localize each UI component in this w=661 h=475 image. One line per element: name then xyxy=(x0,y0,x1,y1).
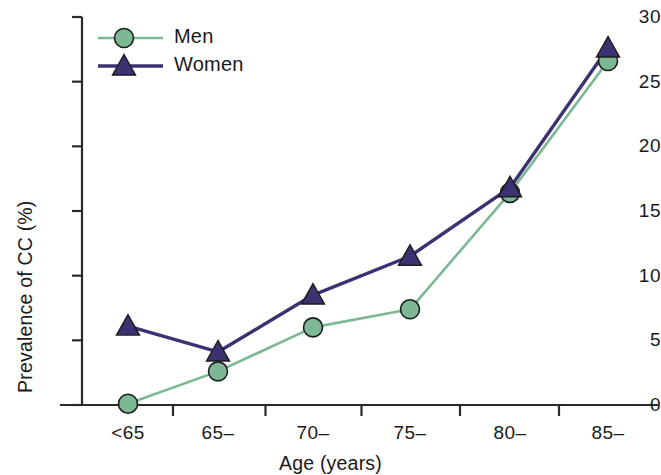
legend-glyphs xyxy=(98,29,163,75)
y-tick-label: 20 xyxy=(595,135,661,157)
y-tick-label: 15 xyxy=(595,200,661,222)
axis-ticks xyxy=(72,17,559,416)
y-axis-title: Prevalence of CC (%) xyxy=(14,200,37,393)
x-tick-label: 80– xyxy=(493,422,526,444)
x-tick-label: 85– xyxy=(591,422,624,444)
x-tick-label: 70– xyxy=(296,422,329,444)
y-tick-label: 25 xyxy=(595,71,661,93)
x-tick-label: 65– xyxy=(201,422,234,444)
legend-label-women: Women xyxy=(174,53,244,76)
y-tick-label: 10 xyxy=(595,265,661,287)
y-tick-label: 30 xyxy=(595,6,661,28)
series-lines xyxy=(128,48,608,404)
x-tick-label: 75– xyxy=(393,422,426,444)
series-markers xyxy=(117,37,620,414)
axis-lines xyxy=(60,17,658,405)
x-axis-title: Age (years) xyxy=(0,452,661,475)
x-tick-label: <65 xyxy=(111,422,145,444)
legend-label-men: Men xyxy=(174,25,214,48)
y-tick-label: 5 xyxy=(595,329,661,351)
y-tick-label: 0 xyxy=(595,394,661,416)
